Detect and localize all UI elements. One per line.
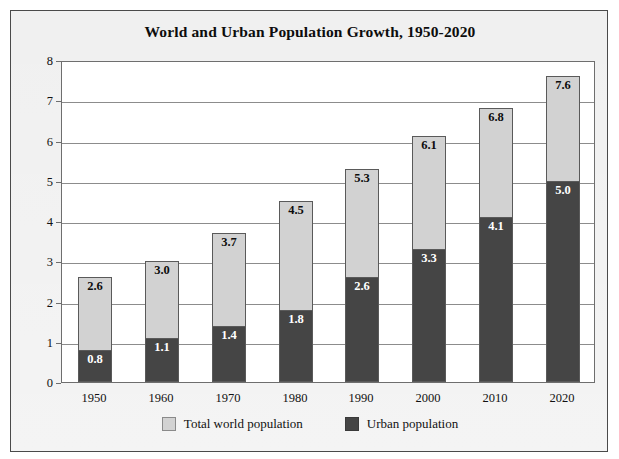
gridline: [62, 263, 594, 264]
bar-group[interactable]: 3.71.4: [212, 60, 246, 382]
y-axis-tick-label: 7: [31, 94, 53, 109]
light-gray-swatch-icon: [162, 417, 176, 431]
bar-value-label-total: 6.8: [479, 111, 513, 124]
bar-value-label-total: 2.6: [78, 280, 112, 293]
bar-value-label-urban: 4.1: [479, 220, 513, 233]
bar-group[interactable]: 6.84.1: [479, 60, 513, 382]
gridline: [62, 102, 594, 103]
bar-value-label-urban: 1.8: [279, 313, 313, 326]
y-axis-tick-label: 0: [31, 376, 53, 391]
y-axis-tick-label: 4: [31, 215, 53, 230]
x-axis-tick-label: 1990: [331, 391, 391, 406]
legend-item[interactable]: Total world population: [162, 416, 303, 432]
bar-value-label-total: 4.5: [279, 204, 313, 217]
dark-gray-swatch-icon: [345, 417, 359, 431]
gridline: [62, 304, 594, 305]
bar-value-label-urban: 2.6: [345, 280, 379, 293]
y-axis-tick-label: 1: [31, 335, 53, 350]
gridline: [62, 143, 594, 144]
bar-group[interactable]: 6.13.3: [412, 60, 446, 382]
bar-value-label-urban: 3.3: [412, 252, 446, 265]
bar-value-label-urban: 5.0: [546, 184, 580, 197]
x-axis-tick-label: 2020: [532, 391, 592, 406]
bar-value-label-urban: 1.1: [145, 341, 179, 354]
y-axis-tick-label: 6: [31, 134, 53, 149]
y-axis-tick-label: 2: [31, 295, 53, 310]
bar-urban-population[interactable]: [479, 217, 513, 382]
bar-urban-population[interactable]: [412, 249, 446, 382]
y-axis-tick-label: 8: [31, 54, 53, 69]
x-axis-tick-label: 1970: [198, 391, 258, 406]
bar-group[interactable]: 5.32.6: [345, 60, 379, 382]
bar-group[interactable]: 4.51.8: [279, 60, 313, 382]
bar-group[interactable]: 7.65.0: [546, 60, 580, 382]
legend-label: Total world population: [184, 416, 303, 432]
x-axis-tick-label: 1960: [131, 391, 191, 406]
x-axis-tick-label: 2010: [465, 391, 525, 406]
bar-value-label-total: 3.0: [145, 264, 179, 277]
plot-area: 2.60.83.01.13.71.44.51.85.32.66.13.36.84…: [61, 61, 595, 383]
page-title: World and Urban Population Growth, 1950-…: [11, 23, 609, 41]
gridline: [62, 183, 594, 184]
bar-urban-population[interactable]: [546, 181, 580, 382]
bar-value-label-urban: 1.4: [212, 329, 246, 342]
bar-group[interactable]: 2.60.8: [78, 60, 112, 382]
legend-label: Urban population: [367, 416, 458, 432]
x-axis-tick-label: 2000: [398, 391, 458, 406]
y-axis-tick-label: 5: [31, 174, 53, 189]
plot-inner: 2.60.83.01.13.71.44.51.85.32.66.13.36.84…: [62, 62, 594, 382]
bar-group[interactable]: 3.01.1: [145, 60, 179, 382]
figure-frame: World and Urban Population Growth, 1950-…: [10, 10, 608, 452]
bar-value-label-total: 6.1: [412, 139, 446, 152]
legend-item[interactable]: Urban population: [345, 416, 458, 432]
x-axis-tick-label: 1980: [265, 391, 325, 406]
chart-legend: Total world populationUrban population: [11, 416, 609, 432]
gridline: [62, 344, 594, 345]
bar-value-label-total: 5.3: [345, 172, 379, 185]
x-axis-tick-label: 1950: [64, 391, 124, 406]
y-axis-tick-mark: [56, 383, 61, 384]
y-axis-tick-label: 3: [31, 255, 53, 270]
bar-value-label-total: 7.6: [546, 79, 580, 92]
gridline: [62, 223, 594, 224]
bar-value-label-urban: 0.8: [78, 353, 112, 366]
bar-value-label-total: 3.7: [212, 236, 246, 249]
